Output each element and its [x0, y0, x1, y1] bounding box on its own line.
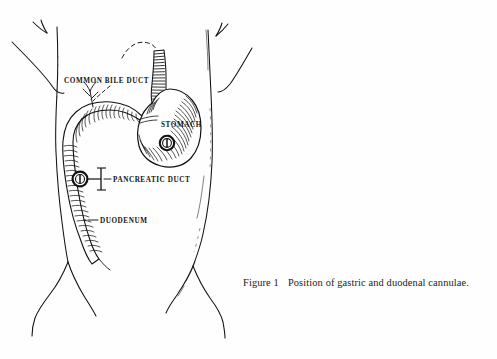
- figure-page: COMMON BILE DUCT STOMACH PANCREATIC DUCT…: [0, 0, 497, 359]
- left-forearm-contour: [33, 22, 47, 33]
- figure-caption: Figure 1Position of gastric and duodenal…: [243, 277, 469, 288]
- label-common-bile-duct: COMMON BILE DUCT: [64, 77, 149, 85]
- left-inner-thigh: [68, 262, 96, 316]
- label-duodenum: DUODENUM: [100, 217, 148, 225]
- gastric-cannula: [160, 136, 174, 150]
- right-arm-contour: [218, 48, 252, 92]
- duodenum-tip: [99, 259, 110, 270]
- figure-number: Figure 1: [243, 277, 279, 288]
- anatomy-illustration: COMMON BILE DUCT STOMACH PANCREATIC DUCT…: [0, 0, 497, 359]
- figure-caption-text: Position of gastric and duodenal cannula…: [288, 277, 469, 288]
- duodenum: [63, 102, 142, 270]
- bile-duct-leader-line: [93, 86, 110, 101]
- right-forearm-contour: [216, 24, 228, 36]
- duodenal-cannula: [73, 168, 106, 190]
- left-groin-contour: [32, 262, 68, 336]
- label-stomach: STOMACH: [161, 121, 202, 129]
- diaphragm-outline: [122, 42, 158, 58]
- left-arm-contour: [12, 42, 64, 93]
- right-inner-thigh: [166, 266, 193, 313]
- label-pancreatic-duct: PANCREATIC DUCT: [113, 176, 190, 184]
- right-groin-contour: [193, 266, 225, 338]
